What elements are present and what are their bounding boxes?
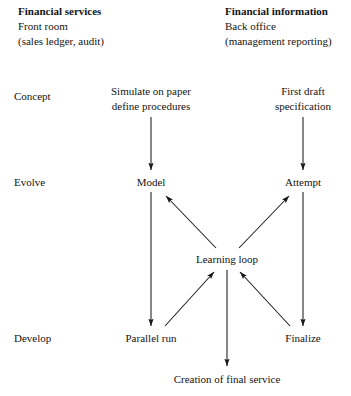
stage-label-develop: Develop xyxy=(14,331,51,345)
node-creation-of-final-service: Creation of final service xyxy=(174,372,281,386)
node-finalize: Finalize xyxy=(285,331,320,345)
column-heading-financial-information: Financial information xyxy=(225,4,328,18)
node-simulate-on-paper-line1: Simulate on paper xyxy=(111,84,191,98)
edge-learning-loop-to-model xyxy=(166,196,216,248)
column-detail-sales-ledger-audit: (sales ledger, audit) xyxy=(18,34,104,48)
column-detail-management-reporting: (management reporting) xyxy=(225,34,332,48)
diagram-canvas: Financial services Front room (sales led… xyxy=(0,0,351,396)
column-subtitle-back-office: Back office xyxy=(225,19,276,33)
node-simulate-on-paper-line2: define procedures xyxy=(112,99,191,113)
column-heading-financial-services: Financial services xyxy=(18,4,101,18)
node-first-draft-specification-line2: specification xyxy=(275,99,331,113)
edge-parallel-run-to-learning-loop xyxy=(165,272,214,326)
node-learning-loop: Learning loop xyxy=(196,252,258,266)
node-model: Model xyxy=(137,175,166,189)
stage-label-evolve: Evolve xyxy=(14,175,45,189)
edge-learning-loop-to-attempt xyxy=(239,196,289,248)
edge-finalize-to-learning-loop xyxy=(240,272,290,326)
stage-label-concept: Concept xyxy=(14,89,51,103)
column-subtitle-front-room: Front room xyxy=(18,19,68,33)
node-first-draft-specification-line1: First draft xyxy=(281,84,325,98)
node-parallel-run: Parallel run xyxy=(125,331,176,345)
node-attempt: Attempt xyxy=(285,175,321,189)
